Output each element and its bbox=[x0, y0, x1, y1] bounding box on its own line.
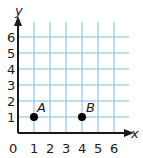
y-tick: 4 bbox=[7, 62, 15, 77]
y-tick: 1 bbox=[7, 110, 15, 125]
x-tick: 6 bbox=[110, 141, 118, 156]
x-tick-labels: 0 1 2 3 4 5 6 bbox=[9, 141, 118, 156]
y-axis-label: y bbox=[14, 3, 23, 18]
coordinate-plane: y x 0 1 2 3 4 5 6 1 2 3 4 5 6 A B bbox=[0, 0, 143, 158]
point-a: A bbox=[30, 100, 46, 121]
x-tick: 3 bbox=[62, 141, 70, 156]
x-tick: 2 bbox=[46, 141, 54, 156]
x-tick: 1 bbox=[30, 141, 38, 156]
x-axis-label: x bbox=[130, 126, 139, 141]
point-a-label: A bbox=[36, 100, 46, 115]
y-tick-labels: 1 2 3 4 5 6 bbox=[7, 30, 15, 125]
point-b-dot bbox=[78, 113, 86, 121]
x-tick: 0 bbox=[9, 141, 17, 156]
x-tick: 4 bbox=[78, 141, 86, 156]
point-b-label: B bbox=[86, 100, 95, 115]
y-tick: 3 bbox=[7, 78, 15, 93]
point-b: B bbox=[78, 100, 95, 121]
x-tick: 5 bbox=[94, 141, 102, 156]
y-tick: 6 bbox=[7, 30, 15, 45]
y-tick: 2 bbox=[7, 94, 15, 109]
y-tick: 5 bbox=[7, 46, 15, 61]
